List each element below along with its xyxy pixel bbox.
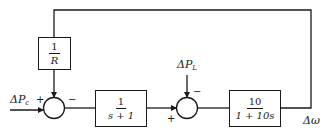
plant-denominator: 1 + 10s [236,109,275,121]
input-label: ΔPc [10,94,29,107]
sum1-plus-sign: + [36,95,44,105]
governor-fraction: 1 s + 1 [108,96,134,121]
output-label: Δω [303,115,320,126]
disturbance-label-base: ΔP [177,58,192,71]
disturbance-label-sub: L [192,64,197,72]
disturbance-label: ΔPL [177,59,197,72]
droop-fraction: 1 R [49,41,59,66]
sum2-plus-sign: + [167,114,175,124]
droop-block: 1 R [38,37,71,70]
summing-junction-2 [177,98,198,119]
input-label-base: ΔP [10,93,25,106]
droop-denominator: R [51,54,59,66]
governor-denominator: s + 1 [108,109,134,121]
plant-numerator: 10 [247,96,264,109]
droop-numerator: 1 [49,41,59,54]
governor-numerator: 1 [116,96,126,109]
governor-block: 1 s + 1 [95,90,147,127]
input-label-sub: c [25,99,29,107]
sum1-minus-sign: − [68,95,76,105]
sum2-minus-sign: − [193,87,201,97]
plant-fraction: 10 1 + 10s [236,96,275,121]
plant-block: 10 1 + 10s [229,90,281,127]
summing-junction-1 [44,98,65,119]
